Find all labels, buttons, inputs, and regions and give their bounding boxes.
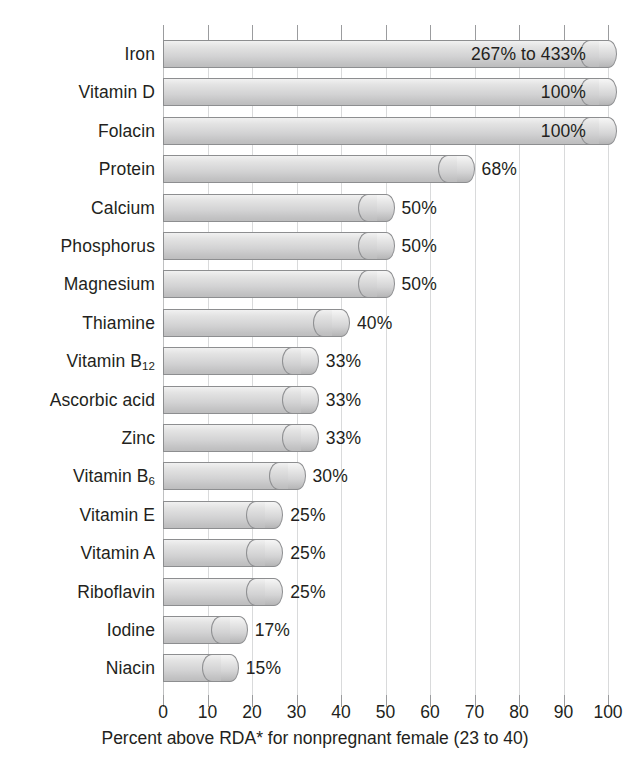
bar-value-label: 25%	[290, 501, 325, 529]
bar-end-cap	[457, 155, 475, 183]
bar-value-label: 68%	[482, 155, 517, 183]
x-tick-label-80: 80	[509, 700, 528, 724]
tick-top-20	[252, 25, 253, 40]
tick-top-80	[519, 25, 520, 40]
bar-thiamine	[163, 309, 341, 337]
category-label-iron: Iron	[0, 40, 155, 68]
bar-row: 15%	[163, 654, 608, 682]
category-label-thiamine: Thiamine	[0, 309, 155, 337]
category-label-magnesium: Magnesium	[0, 270, 155, 298]
category-label-iodine: Iodine	[0, 616, 155, 644]
bar-row: 33%	[163, 386, 608, 414]
bar-vitamin-b12	[163, 347, 310, 375]
x-tick-label-60: 60	[420, 700, 439, 724]
bar-cap-arc	[313, 309, 333, 337]
category-label-vitamin-b6: Vitamin B6	[0, 462, 155, 490]
bar-calcium	[163, 194, 386, 222]
bar-end-cap	[599, 78, 617, 106]
category-label-protein: Protein	[0, 155, 155, 183]
plot-area: 267% to 433%100%100%68%50%50%50%40%33%33…	[163, 40, 608, 695]
bar-end-cap	[599, 40, 617, 68]
bar-end-cap	[301, 347, 319, 375]
bar-cap-arc	[246, 539, 266, 567]
bar-row: 100%	[163, 78, 608, 106]
bar-value-label: 25%	[290, 578, 325, 606]
category-label-vitamin-a: Vitamin A	[0, 539, 155, 567]
bar-vitamin-a	[163, 539, 274, 567]
bar-value-label: 25%	[290, 539, 325, 567]
bar-end-cap	[265, 578, 283, 606]
x-tick-label-70: 70	[465, 700, 484, 724]
bar-row: 33%	[163, 347, 608, 375]
bar-end-cap	[265, 501, 283, 529]
bar-row: 33%	[163, 424, 608, 452]
bar-value-label: 30%	[313, 462, 348, 490]
bar-end-cap	[301, 424, 319, 452]
bar-value-label: 50%	[402, 232, 437, 260]
category-label-riboflavin: Riboflavin	[0, 578, 155, 606]
bar-cap-arc	[438, 155, 458, 183]
bar-value-label: 50%	[402, 270, 437, 298]
bar-end-cap	[265, 539, 283, 567]
bar-end-cap	[230, 616, 248, 644]
category-label-vitamin-d: Vitamin D	[0, 78, 155, 106]
x-tick-label-100: 100	[593, 700, 622, 724]
bar-row: 30%	[163, 462, 608, 490]
bar-value-label: 33%	[326, 424, 361, 452]
x-tick-label-20: 20	[242, 700, 261, 724]
x-tick-label-40: 40	[331, 700, 350, 724]
tick-top-70	[475, 25, 476, 40]
bar-end-cap	[377, 232, 395, 260]
bar-value-label: 100%	[541, 117, 586, 145]
bar-value-label: 33%	[326, 386, 361, 414]
bar-row: 17%	[163, 616, 608, 644]
category-label-vitamin-e: Vitamin E	[0, 501, 155, 529]
bar-row: 25%	[163, 539, 608, 567]
bar-row: 40%	[163, 309, 608, 337]
bar-cap-arc	[358, 232, 378, 260]
bar-cap-arc	[202, 654, 222, 682]
bar-cap-arc	[358, 194, 378, 222]
x-tick-label-0: 0	[158, 700, 168, 724]
x-tick-label-30: 30	[287, 700, 306, 724]
tick-top-0	[163, 25, 164, 40]
bar-vitamin-b6	[163, 462, 297, 490]
bar-row: 50%	[163, 270, 608, 298]
category-label-vitamin-b12: Vitamin B12	[0, 347, 155, 375]
bar-row: 68%	[163, 155, 608, 183]
bar-cap-arc	[269, 462, 289, 490]
bar-value-label: 50%	[402, 194, 437, 222]
category-label-calcium: Calcium	[0, 194, 155, 222]
bar-riboflavin	[163, 578, 274, 606]
bar-vitamin-e	[163, 501, 274, 529]
bar-row: 25%	[163, 578, 608, 606]
bar-value-label: 267% to 433%	[471, 40, 586, 68]
bar-magnesium	[163, 270, 386, 298]
x-tick-label-90: 90	[554, 700, 573, 724]
bar-zinc	[163, 424, 310, 452]
bar-end-cap	[288, 462, 306, 490]
bar-iodine	[163, 616, 239, 644]
category-label-niacin: Niacin	[0, 654, 155, 682]
bar-ascorbic-acid	[163, 386, 310, 414]
bar-cap-arc	[358, 270, 378, 298]
category-label-phosphorus: Phosphorus	[0, 232, 155, 260]
bar-protein	[163, 155, 466, 183]
bar-value-label: 17%	[255, 616, 290, 644]
bar-end-cap	[221, 654, 239, 682]
bar-end-cap	[301, 386, 319, 414]
tick-top-10	[208, 25, 209, 40]
bar-row: 25%	[163, 501, 608, 529]
tick-top-90	[564, 25, 565, 40]
bar-cap-arc	[211, 616, 231, 644]
tick-top-30	[297, 25, 298, 40]
bar-cap-arc	[282, 424, 302, 452]
category-label-ascorbic-acid: Ascorbic acid	[0, 386, 155, 414]
bar-cap-arc	[282, 386, 302, 414]
bar-row: 267% to 433%	[163, 40, 608, 68]
bar-end-cap	[332, 309, 350, 337]
bar-row: 50%	[163, 232, 608, 260]
tick-top-60	[430, 25, 431, 40]
rda-bar-chart-figure: IronVitamin DFolacinProteinCalciumPhosph…	[0, 0, 630, 777]
bar-end-cap	[377, 194, 395, 222]
